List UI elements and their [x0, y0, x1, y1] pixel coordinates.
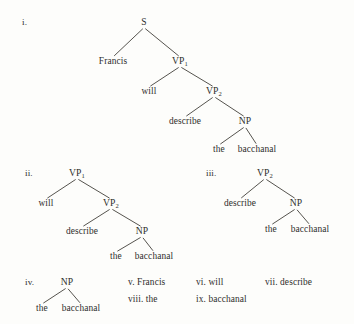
item-ii-node-vp1: VP1 — [69, 167, 85, 179]
tree-branch — [216, 98, 244, 116]
item-ii-node-will: will — [39, 198, 54, 208]
tree-branch — [267, 180, 295, 198]
tree-branch — [297, 210, 308, 223]
tree-branch — [273, 210, 295, 224]
item-iv-node-the: the — [36, 303, 48, 313]
item-iii-node-bacchanal: bacchanal — [291, 224, 330, 234]
tree-branch — [113, 210, 141, 226]
constituent-tree-canvas: SFrancisVP1willVP2describeNPthebacchanal… — [0, 0, 354, 324]
item-iv-node-bacchanal: bacchanal — [62, 303, 101, 313]
item-iv-enumerator: iv. — [25, 277, 34, 287]
item-iii-enumerator: iii. — [206, 168, 216, 178]
tree-branch — [182, 68, 213, 86]
item-i-node-will: will — [142, 86, 157, 96]
tree-branch — [143, 238, 153, 250]
tree-branch — [118, 238, 141, 251]
item-ii: VP1willVP2describeNPthebacchanalii. — [25, 167, 173, 261]
item-ix: ix. bacchanal — [196, 294, 247, 304]
item-i-node-vp2: VP2 — [206, 85, 222, 97]
tree-branch — [146, 29, 179, 56]
item-ii-enumerator: ii. — [25, 168, 33, 178]
item-ii-node-np: NP — [136, 225, 148, 236]
item-ii-node-the: the — [110, 251, 122, 261]
item-iv: NPthebacchanaliv. — [25, 276, 100, 313]
tree-branch — [114, 29, 142, 56]
tree-branch — [246, 128, 256, 143]
tree-branch — [68, 289, 79, 302]
item-vii: vii. describe — [265, 277, 312, 287]
item-i-node-bacchanal: bacchanal — [238, 144, 277, 154]
tree-branch — [187, 98, 213, 116]
item-vi-label: vi. will — [196, 277, 224, 287]
item-iii-node-the: the — [265, 224, 277, 234]
item-ii-node-vp2: VP2 — [103, 197, 119, 209]
tree-branch — [221, 128, 244, 144]
item-iii-node-vp2: VP2 — [257, 167, 273, 179]
item-iv-node-np: NP — [61, 276, 73, 287]
item-v: v. Francis — [128, 277, 166, 287]
item-i-node-np: NP — [239, 115, 251, 126]
item-i-node-s: S — [141, 16, 146, 27]
tree-branch — [79, 180, 110, 198]
item-ii-node-bacchanal: bacchanal — [135, 251, 174, 261]
tree-branch — [44, 289, 66, 303]
item-iii-node-describe: describe — [224, 198, 256, 208]
tree-branch — [84, 210, 110, 226]
item-i-node-describe: describe — [169, 116, 201, 126]
item-i-node-vp1: VP1 — [172, 55, 188, 67]
item-ii-node-describe: describe — [66, 226, 98, 236]
item-v-label: v. Francis — [128, 277, 166, 287]
item-viii: viii. the — [128, 294, 158, 304]
item-i-node-francis: Francis — [99, 56, 128, 66]
item-viii-label: viii. the — [128, 294, 158, 304]
item-i-enumerator: i. — [22, 17, 27, 27]
tree-branch — [48, 180, 76, 198]
syntax-tree-figure: SFrancisVP1willVP2describeNPthebacchanal… — [0, 0, 354, 324]
tree-branch — [242, 180, 264, 198]
item-i-node-the: the — [213, 144, 225, 154]
item-vi: vi. will — [196, 277, 224, 287]
item-iii-node-np: NP — [290, 197, 302, 208]
item-iii: VP2describeNPthebacchanaliii. — [206, 167, 329, 234]
item-i: SFrancisVP1willVP2describeNPthebacchanal… — [22, 16, 276, 154]
item-ix-label: ix. bacchanal — [196, 294, 247, 304]
item-vii-label: vii. describe — [265, 277, 312, 287]
tree-branch — [151, 68, 179, 86]
